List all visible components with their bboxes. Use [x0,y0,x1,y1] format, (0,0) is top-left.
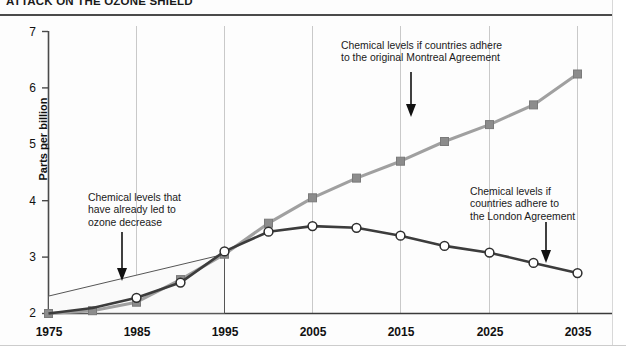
x-tick-1985: 1985 [107,325,167,339]
y-tick-4: 4 [14,194,36,208]
annotation-ozone-decrease: Chemical levels that have already led to… [88,192,181,229]
chart-svg [0,0,626,355]
x-tick-1975: 1975 [19,325,79,339]
x-tick-2035: 2035 [548,325,608,339]
annotation-montreal: Chemical levels if countries adhere to t… [341,40,502,65]
y-tick-7: 7 [14,25,36,39]
chart-page: ATTACK ON THE OZONE SHIELD [0,0,626,355]
x-tick-1995: 1995 [195,325,255,339]
x-tick-2025: 2025 [460,325,520,339]
y-tick-5: 5 [14,137,36,151]
arrow-london [541,222,551,263]
page-bottom-margin [0,345,626,355]
y-axis-title: Parts per billion [37,79,49,199]
x-tick-2015: 2015 [371,325,431,339]
x-tick-2005: 2005 [283,325,343,339]
chart-plot-area: Parts per billion 7 6 5 4 3 2 1975 1985 … [0,0,626,355]
y-tick-2: 2 [14,306,36,320]
annotation-london: Chemical levels if countries adhere to t… [470,186,575,223]
arrow-montreal [406,72,416,117]
page-right-margin [612,0,626,355]
y-tick-6: 6 [14,81,36,95]
y-tick-3: 3 [14,250,36,264]
arrow-ozone-decrease [117,232,127,281]
